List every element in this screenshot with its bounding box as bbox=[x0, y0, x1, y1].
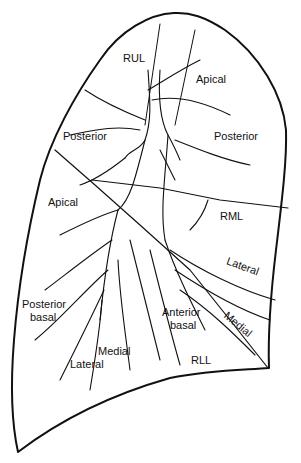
segment-label-lateral-basal: Lateral bbox=[70, 358, 104, 370]
lobe-label-rml: RML bbox=[220, 210, 243, 222]
lobe-label-rll: RLL bbox=[191, 354, 211, 366]
rul-guide-line-1 bbox=[145, 24, 160, 125]
segment-label-posterior-basal-2: basal bbox=[30, 311, 56, 323]
segment-label-apical-lower: Apical bbox=[48, 196, 78, 208]
segment-label-anterior-basal-2: basal bbox=[170, 319, 196, 331]
segment-label-medial-basal: Medial bbox=[98, 345, 130, 357]
bronchial-tree bbox=[35, 60, 275, 390]
lung-outline-drawing bbox=[0, 0, 301, 463]
segment-label-anterior-basal-1: Anterior bbox=[162, 306, 201, 318]
horizontal-fissure bbox=[92, 180, 288, 208]
lobe-label-rul: RUL bbox=[123, 52, 145, 64]
segment-label-posterior-basal-1: Posterior bbox=[22, 298, 66, 310]
segment-label-posterior-left: Posterior bbox=[63, 130, 107, 142]
segment-label-apical-upper: Apical bbox=[196, 73, 226, 85]
lung-diagram: RUL Apical Posterior Posterior Apical RM… bbox=[0, 0, 301, 463]
segment-label-posterior-right: Posterior bbox=[214, 130, 258, 142]
rul-guide-line-2 bbox=[175, 30, 195, 125]
